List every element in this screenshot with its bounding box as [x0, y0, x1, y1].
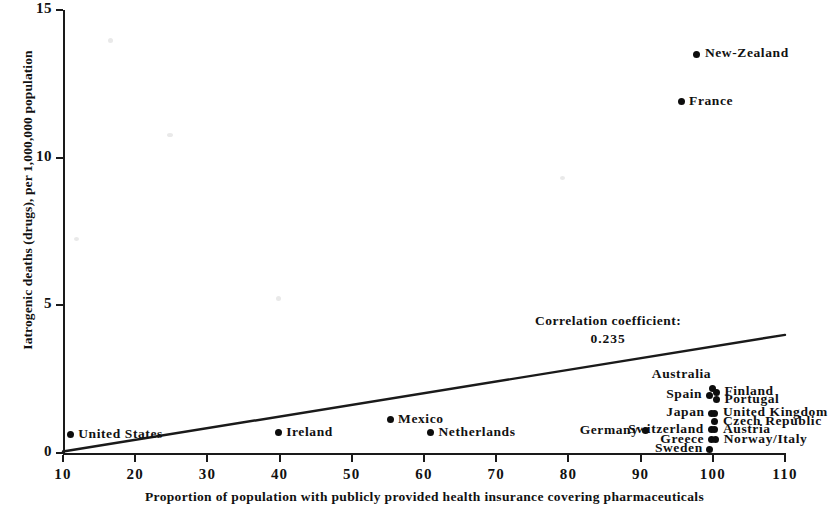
x-tick-label-80: 80 [538, 466, 598, 483]
x-tick-label-30: 30 [177, 466, 237, 483]
correlation-annotation: Correlation coefficient: 0.235 [535, 313, 681, 347]
point-label: Ireland [286, 424, 333, 440]
point-label: United States [78, 426, 163, 442]
x-tick-50 [351, 455, 353, 462]
scan-speckle [108, 38, 113, 43]
point-label: Netherlands [438, 424, 515, 440]
x-tick-60 [423, 455, 425, 462]
point-label: Mexico [398, 411, 444, 427]
scan-speckle [276, 296, 281, 301]
data-point [706, 446, 713, 453]
point-label: Norway/Italy [724, 431, 808, 447]
x-tick-70 [495, 455, 497, 462]
correlation-label: Correlation coefficient: [535, 313, 681, 328]
data-point [706, 392, 713, 399]
y-tick-label-15: 15 [18, 0, 52, 17]
x-axis-title: Proportion of population with publicly p… [63, 489, 786, 505]
scan-speckle [167, 133, 173, 137]
x-tick-30 [206, 455, 208, 462]
data-point [713, 396, 720, 403]
x-tick-label-50: 50 [322, 466, 382, 483]
x-tick-90 [640, 455, 642, 462]
data-point [711, 418, 718, 425]
x-tick-label-110: 110 [755, 466, 815, 483]
data-point [387, 416, 394, 423]
x-tick-10 [62, 455, 64, 462]
data-point [711, 410, 718, 417]
point-label: France [689, 93, 733, 109]
point-label: Sweden [655, 440, 703, 456]
x-tick-110 [784, 455, 786, 462]
data-point [713, 389, 720, 396]
correlation-value: 0.235 [535, 331, 681, 347]
point-label: Spain [666, 386, 702, 402]
y-tick-5 [56, 304, 63, 306]
x-tick-label-100: 100 [683, 466, 743, 483]
y-axis-title: Iatrogenic deaths (drugs), per 1,000,000… [20, 20, 36, 380]
data-point [275, 429, 282, 436]
data-point [712, 436, 719, 443]
point-label: Japan [666, 404, 704, 420]
y-tick-label-wrap: 0 [0, 443, 52, 461]
data-point [67, 431, 74, 438]
y-tick-0 [56, 452, 63, 454]
data-point [427, 429, 434, 436]
x-tick-100 [712, 455, 714, 462]
y-axis-line [63, 10, 65, 454]
data-point [711, 426, 718, 433]
x-tick-label-60: 60 [394, 466, 454, 483]
y-tick-15 [56, 9, 63, 11]
data-point [678, 98, 685, 105]
y-tick-10 [56, 157, 63, 159]
scan-speckle [560, 176, 565, 180]
x-tick-label-40: 40 [250, 466, 310, 483]
x-tick-label-70: 70 [466, 466, 526, 483]
y-tick-label-0: 0 [18, 443, 52, 460]
x-tick-label-20: 20 [105, 466, 165, 483]
data-point [693, 51, 700, 58]
y-tick-label-wrap: 15 [0, 0, 52, 18]
x-tick-20 [134, 455, 136, 462]
point-label: New-Zealand [705, 45, 789, 61]
x-tick-40 [279, 455, 281, 462]
scan-speckle [74, 237, 79, 241]
x-tick-label-90: 90 [611, 466, 671, 483]
x-tick-80 [567, 455, 569, 462]
point-label: Australia [652, 366, 711, 382]
x-tick-label-10: 10 [33, 466, 93, 483]
